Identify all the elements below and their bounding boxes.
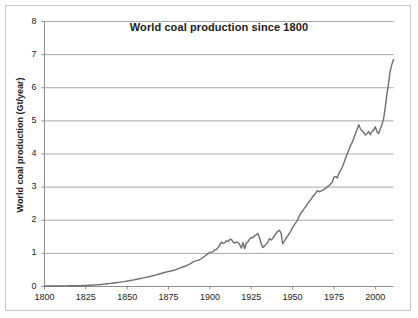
y-tick-label: 8 [21, 17, 37, 26]
y-tick-label: 6 [21, 83, 37, 92]
x-tick-label: 1825 [66, 293, 106, 302]
y-tick-label: 3 [21, 182, 37, 191]
x-tick-label: 2000 [355, 293, 395, 302]
data-series-group [45, 60, 394, 287]
y-tick-label: 7 [21, 50, 37, 59]
chart-container: World coal production since 1800 World c… [0, 0, 418, 318]
x-tick-label: 1950 [273, 293, 313, 302]
x-tick-label: 1900 [190, 293, 230, 302]
y-tick-label: 4 [21, 149, 37, 158]
series-line-0 [45, 60, 394, 287]
x-tick-label: 1925 [231, 293, 271, 302]
x-tick-label: 1850 [107, 293, 147, 302]
gridlines-group [45, 22, 394, 254]
y-tick-label: 2 [21, 215, 37, 224]
y-tick-label: 0 [21, 282, 37, 291]
x-tick-label: 1875 [149, 293, 189, 302]
y-tick-label: 1 [21, 248, 37, 257]
x-tick-label: 1800 [25, 293, 65, 302]
y-tick-label: 5 [21, 116, 37, 125]
x-tick-label: 1975 [314, 293, 354, 302]
chart-plot-area [0, 0, 418, 318]
tick-marks-group [42, 22, 376, 290]
